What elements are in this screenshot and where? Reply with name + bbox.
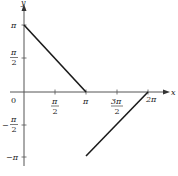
y-tick-label-pi: π — [10, 21, 17, 30]
y-tick-label-neg-pi-over-2: − π 2 — [2, 115, 18, 134]
svg-text:2: 2 — [12, 125, 17, 134]
series-segment-1 — [24, 25, 86, 92]
x-tick-label-3pi-over-2: 3π 2 — [111, 97, 123, 116]
y-tick-label-pi-over-2: π 2 — [10, 48, 18, 67]
svg-text:π: π — [10, 48, 17, 57]
origin-label: 0 — [11, 96, 16, 105]
x-tick-label-pi: π — [82, 97, 89, 106]
x-tick-label-pi-over-2: π 2 — [51, 97, 59, 116]
svg-text:2: 2 — [115, 107, 120, 116]
svg-text:π: π — [10, 115, 17, 124]
svg-text:2: 2 — [12, 58, 17, 67]
x-tick-label-2pi: 2π — [145, 95, 157, 104]
y-tick-label-neg-pi: −π — [6, 153, 19, 162]
svg-text:2: 2 — [53, 107, 58, 116]
chart-plot: x y 0 π 2 π 3π 2 2π π π 2 − π 2 — [0, 0, 178, 176]
svg-text:π: π — [51, 97, 58, 106]
svg-text:3π: 3π — [111, 97, 122, 106]
x-axis-label: x — [171, 88, 176, 97]
y-axis-label: y — [20, 0, 26, 7]
svg-text:−: − — [2, 121, 9, 130]
x-axis-arrow-icon — [163, 90, 170, 95]
